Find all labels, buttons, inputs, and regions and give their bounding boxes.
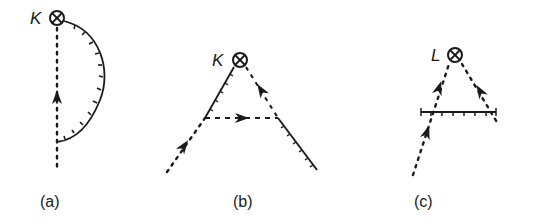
vertex-label-b: K bbox=[212, 51, 224, 70]
arc-ticks bbox=[64, 25, 103, 139]
panel-b: K (b) bbox=[167, 51, 317, 210]
vertex-label-c: L bbox=[431, 46, 440, 65]
arrow-icon bbox=[253, 81, 269, 98]
panel-a: K (a) bbox=[30, 9, 105, 210]
ticks-left bbox=[210, 74, 233, 111]
panel-c: L (c) bbox=[413, 46, 498, 210]
feynman-diagram-figure: K (a) bbox=[0, 0, 535, 224]
vertex-label-a: K bbox=[30, 9, 42, 28]
arrow-icon bbox=[420, 124, 434, 140]
otimes-vertex-icon bbox=[448, 48, 462, 62]
caption-a: (a) bbox=[40, 193, 60, 210]
dotted-propagator-incoming bbox=[413, 64, 449, 175]
ticks-right bbox=[281, 126, 313, 167]
caption-c: (c) bbox=[414, 193, 433, 210]
caption-b: (b) bbox=[233, 193, 253, 210]
otimes-vertex-icon bbox=[50, 11, 64, 25]
otimes-vertex-icon bbox=[233, 53, 247, 67]
